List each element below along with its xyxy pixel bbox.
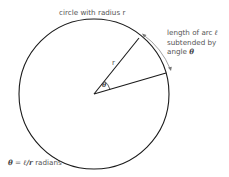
circle-title-label: circle with radius r — [59, 8, 125, 18]
arc-label-line3: angle θ — [167, 47, 218, 57]
circle-diagram — [0, 0, 229, 177]
radius-label: r — [112, 58, 115, 68]
arc-label-line1: length of arc ℓ — [167, 28, 218, 38]
radius-line-upper — [94, 38, 139, 94]
angle-label: θ — [102, 81, 106, 91]
arc-label-line2: subtended by — [167, 38, 218, 48]
radians-formula: θ = ℓ/r radians — [8, 158, 62, 168]
arc-length-label: length of arc ℓ subtended by angle θ — [167, 28, 218, 57]
arrowhead-bottom-icon — [168, 67, 172, 71]
